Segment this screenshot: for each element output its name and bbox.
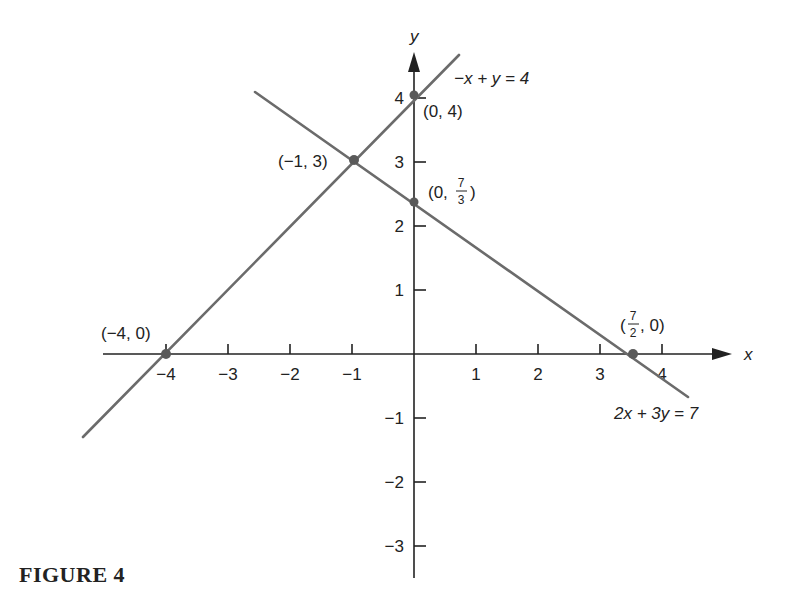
fraction-denominator: 3 <box>458 193 465 207</box>
y-tick-label: −3 <box>385 537 404 556</box>
point-label-neg4-0: (−4, 0) <box>101 324 151 343</box>
y-tick-label: −1 <box>385 409 404 428</box>
point-neg1-3 <box>349 155 359 165</box>
line-neg-x-plus-y-eq-4 <box>83 55 459 437</box>
figure-caption: FIGURE 4 <box>19 562 125 588</box>
label-part: ( <box>620 316 626 335</box>
y-tick-label: 2 <box>395 217 404 236</box>
y-axis-arrow-icon <box>408 52 420 72</box>
x-tick-label: −3 <box>218 365 237 384</box>
x-tick-label: −2 <box>280 365 299 384</box>
fraction-denominator: 2 <box>630 326 637 340</box>
fraction-numerator: 7 <box>458 176 465 190</box>
equation-label-1: −x + y = 4 <box>454 69 529 88</box>
x-tick-label: −4 <box>156 365 175 384</box>
x-axis-label: x <box>743 345 753 364</box>
x-tick-label: −1 <box>342 365 361 384</box>
label-part: , 0) <box>640 316 665 335</box>
equation-label-2: 2x + 3y = 7 <box>613 404 699 423</box>
point-0-7-3 <box>410 198 419 207</box>
y-tick-labels: 4 3 2 1 −1 −2 −3 <box>385 89 404 556</box>
point-label-0-7-3: (0, 7 3 ) <box>428 176 476 207</box>
y-tick-label: 4 <box>395 89 404 108</box>
x-tick-label: 2 <box>533 365 542 384</box>
line-2x-plus-3y-eq-7 <box>255 92 688 397</box>
y-axis-label: y <box>409 27 420 46</box>
chart-canvas: −4 −3 −2 −1 1 2 3 4 4 3 2 1 −1 −2 −3 x y… <box>0 0 788 616</box>
y-tick-label: 1 <box>395 281 404 300</box>
y-ticks <box>414 98 426 546</box>
point-0-4 <box>410 91 419 100</box>
label-part: ) <box>470 183 476 202</box>
point-label-neg1-3: (−1, 3) <box>278 152 328 171</box>
x-tick-label: 1 <box>471 365 480 384</box>
point-neg4-0 <box>161 349 171 359</box>
fraction-numerator: 7 <box>630 309 637 323</box>
x-tick-labels: −4 −3 −2 −1 1 2 3 4 <box>156 365 666 384</box>
x-axis-arrow-icon <box>712 348 732 360</box>
y-tick-label: −2 <box>385 473 404 492</box>
y-tick-label: 3 <box>395 153 404 172</box>
point-7-2-0 <box>628 349 638 359</box>
point-label-7-2-0: ( 7 2 , 0) <box>620 309 665 340</box>
label-part: (0, <box>428 183 448 202</box>
x-tick-label: 3 <box>595 365 604 384</box>
point-label-0-4: (0, 4) <box>423 102 463 121</box>
